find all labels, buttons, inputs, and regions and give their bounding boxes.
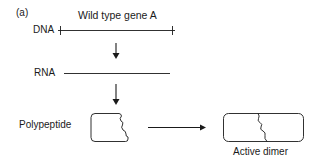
diagram-canvas — [0, 0, 323, 167]
dimer-interface — [258, 114, 267, 142]
dimerization-arrowhead — [200, 125, 206, 131]
dimer-shape — [224, 114, 304, 142]
transcription-arrowhead — [113, 53, 120, 59]
translation-arrowhead — [113, 99, 120, 105]
monomer-shape — [91, 114, 128, 142]
